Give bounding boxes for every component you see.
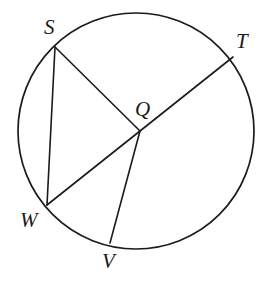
point-label-Q: Q: [135, 99, 150, 120]
point-label-W: W: [20, 210, 38, 231]
chord-SW-segment: [47, 47, 55, 205]
point-label-T: T: [236, 31, 248, 52]
radius-QS-segment: [55, 47, 140, 131]
geometry-diagram: S T Q W V: [0, 0, 278, 282]
circle-outline: [18, 13, 254, 249]
point-label-S: S: [44, 17, 55, 38]
radius-QV-segment: [110, 131, 140, 243]
point-label-V: V: [102, 251, 115, 272]
